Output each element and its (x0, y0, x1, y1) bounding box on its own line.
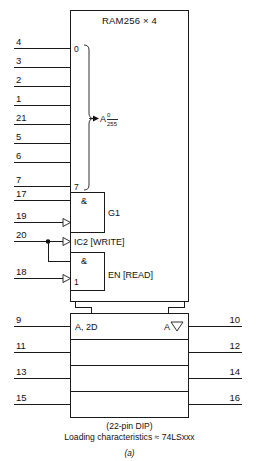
pin-number-address-2: 2 (16, 74, 21, 85)
pin-number-data-in-11: 11 (16, 340, 26, 351)
chip-title: RAM256 × 4 (102, 15, 157, 26)
write-control-label: IC2 [WRITE] (74, 237, 125, 247)
pin-number-data-out-16: 16 (229, 392, 240, 403)
data-output-label: A (164, 322, 170, 332)
gate-g1-and-symbol: & (81, 196, 87, 206)
address-group-letter: A (100, 114, 106, 124)
pin-number-address-5: 5 (16, 131, 21, 142)
pin-number-data-in-15: 15 (16, 392, 27, 403)
pin-number-control-20: 20 (16, 229, 27, 240)
address-index-top: 0 (74, 44, 79, 54)
gate-g1-box (71, 193, 105, 233)
pin-number-control-19: 19 (16, 210, 27, 221)
pin-number-address-6: 6 (16, 150, 21, 161)
pin-number-address-1: 3 (16, 55, 21, 66)
pin-number-address-3: 1 (16, 93, 21, 104)
address-index-bottom: 7 (74, 182, 79, 192)
gate-g2-and-symbol: & (81, 256, 87, 266)
caption-loading: Loading characteristics ≈ 74LSxxx (64, 432, 195, 442)
figure-label: (a) (124, 449, 134, 458)
pin-number-control-17: 17 (16, 188, 27, 199)
read-control-label: EN [READ] (108, 270, 153, 280)
caption-package: (22-pin DIP) (106, 421, 152, 431)
pin-number-data-out-12: 12 (229, 340, 240, 351)
pin-number-control-18: 18 (16, 266, 27, 277)
pin-number-data-in-13: 13 (16, 366, 27, 377)
logic-symbol-diagram: RAM256 × 4 4 3 2 1 21 5 6 7 0 7 A 0 255 … (0, 0, 256, 461)
address-group-denominator: 255 (107, 121, 118, 127)
data-input-label: A, 2D (75, 322, 98, 332)
pin-number-data-in-9: 9 (16, 314, 21, 325)
pin-number-address-0: 4 (16, 36, 21, 47)
pin-number-data-out-14: 14 (229, 366, 240, 377)
pin-number-address-7: 7 (16, 174, 21, 185)
pin-number-data-out-10: 10 (229, 314, 240, 325)
pin-number-address-4: 21 (16, 112, 27, 123)
gate-g1-label: G1 (108, 208, 120, 218)
gate-g2-index: 1 (74, 277, 79, 287)
